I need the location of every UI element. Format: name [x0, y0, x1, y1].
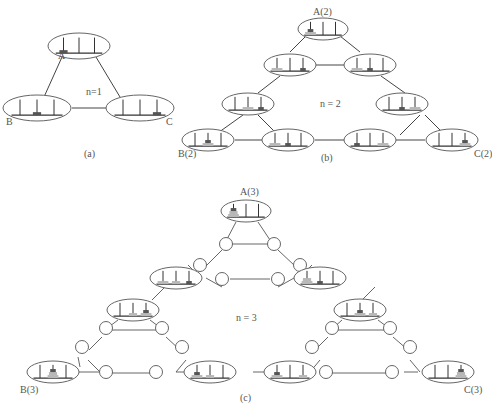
intermediate-node — [220, 238, 233, 251]
panel-b-states — [182, 18, 478, 151]
label-a-n: n=1 — [86, 86, 102, 97]
disc — [317, 281, 323, 284]
disc — [308, 29, 314, 32]
disc — [456, 375, 467, 378]
disc — [352, 68, 363, 71]
caption-b: (b) — [321, 152, 333, 163]
caption-c: (c) — [240, 392, 251, 403]
disc — [153, 112, 161, 115]
label-b-n: n = 2 — [320, 98, 341, 109]
state-node — [334, 299, 386, 321]
label-b-B: B(2) — [178, 148, 196, 159]
intermediate-node — [272, 273, 285, 286]
state-node — [264, 361, 316, 383]
state-node — [264, 54, 316, 76]
state-node — [222, 93, 274, 115]
state-node — [184, 361, 236, 383]
label-b-C: C(2) — [474, 148, 492, 159]
disc — [258, 107, 264, 110]
label-c-C: C(3) — [464, 384, 482, 395]
label-c-n: n = 3 — [236, 312, 257, 323]
disc — [231, 208, 237, 211]
intermediate-node — [100, 322, 113, 335]
disc — [299, 375, 307, 378]
state-node — [426, 129, 478, 151]
intermediate-node — [156, 322, 169, 335]
label-c-B: B(3) — [20, 384, 38, 395]
disc — [50, 369, 56, 372]
panel-c-states — [27, 200, 474, 383]
label-a-C: C — [166, 116, 173, 127]
intermediate-node — [100, 366, 113, 379]
disc — [410, 107, 421, 110]
disc — [303, 278, 311, 281]
state-node — [27, 361, 79, 383]
edge — [44, 57, 62, 97]
disc — [243, 107, 254, 110]
disc — [272, 375, 283, 378]
disc — [274, 372, 280, 375]
state-node — [106, 95, 174, 121]
intermediate-node — [326, 322, 339, 335]
disc — [194, 372, 200, 375]
disc — [141, 313, 152, 316]
disc — [305, 32, 316, 35]
intermediate-node — [176, 341, 189, 354]
intermediate-node — [386, 366, 399, 379]
intermediate-node — [268, 238, 281, 251]
disc — [355, 313, 366, 316]
intermediate-node — [384, 322, 397, 335]
state-node — [298, 18, 348, 40]
label-c-A: A(3) — [240, 186, 259, 197]
disc — [462, 140, 468, 143]
disc — [369, 313, 377, 316]
disc — [302, 281, 313, 284]
label-a-A: A — [58, 50, 65, 61]
intermediate-node — [194, 259, 207, 272]
disc — [206, 375, 214, 378]
disc — [158, 281, 169, 284]
state-node — [262, 129, 314, 151]
label-b-A: A(2) — [313, 6, 332, 17]
hanoi-graph-figure — [0, 0, 492, 411]
intermediate-node — [320, 366, 333, 379]
intermediate-node — [216, 273, 229, 286]
disc — [205, 140, 211, 143]
disc — [272, 68, 283, 71]
disc — [399, 107, 405, 110]
state-node — [294, 267, 346, 289]
intermediate-node — [404, 341, 417, 354]
state-node — [376, 93, 428, 115]
disc — [229, 211, 237, 214]
disc — [203, 143, 214, 146]
state-node — [344, 129, 396, 151]
disc — [378, 143, 389, 146]
state-node — [422, 361, 474, 383]
disc — [367, 68, 373, 71]
state-node — [107, 299, 159, 321]
disc — [49, 372, 57, 375]
state-node — [3, 95, 71, 121]
disc — [300, 68, 306, 71]
disc — [354, 143, 360, 146]
state-node — [150, 267, 202, 289]
panel-b-edges — [215, 36, 445, 140]
disc — [172, 281, 180, 284]
caption-a: (a) — [84, 148, 95, 159]
disc — [48, 375, 59, 378]
label-a-B: B — [6, 116, 13, 127]
disc — [186, 281, 192, 284]
disc — [143, 310, 149, 313]
disc — [33, 112, 41, 115]
state-node — [221, 200, 271, 222]
disc — [357, 310, 363, 313]
state-node — [344, 54, 396, 76]
intermediate-node — [306, 341, 319, 354]
intermediate-node — [76, 341, 89, 354]
intermediate-node — [150, 366, 163, 379]
disc — [270, 143, 281, 146]
disc — [129, 313, 137, 316]
disc — [458, 369, 464, 372]
disc — [460, 143, 471, 146]
disc — [457, 372, 465, 375]
